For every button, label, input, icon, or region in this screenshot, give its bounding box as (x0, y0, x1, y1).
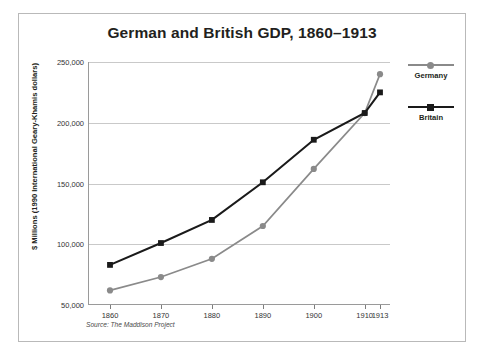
legend-swatch-britain (408, 102, 454, 112)
y-tick-label: 250,000 (57, 58, 84, 67)
x-tick-mark (161, 305, 162, 309)
x-tick-label: 1880 (204, 311, 221, 320)
legend-swatch-germany (408, 60, 454, 70)
data-point (107, 262, 113, 268)
x-tick-label: 1900 (305, 311, 322, 320)
x-tick-mark (365, 305, 366, 309)
x-tick-mark (110, 305, 111, 309)
data-point (311, 137, 317, 143)
series-line (110, 74, 380, 290)
data-point (158, 274, 164, 280)
y-tick-label: 50,000 (61, 301, 84, 310)
data-point (311, 166, 317, 172)
x-tick-mark (212, 305, 213, 309)
plot-area (88, 62, 390, 305)
x-tick-mark (314, 305, 315, 309)
data-point (260, 179, 266, 185)
series-container (88, 62, 390, 305)
data-point (377, 89, 383, 95)
legend-label-britain: Britain (400, 113, 462, 122)
legend-marker-circle (427, 62, 434, 69)
data-point (260, 223, 266, 229)
y-axis-tick-labels: 250,000 200,000 150,000 100,000 50,000 (44, 62, 84, 305)
x-tick-label: 1910 (356, 311, 373, 320)
data-point (362, 110, 368, 116)
series-line (110, 92, 380, 265)
x-tick-label: 1870 (153, 311, 170, 320)
y-axis-title: $ Millions (1990 International Geary-Kha… (30, 47, 39, 267)
data-point (377, 71, 383, 77)
legend-item-britain[interactable]: Britain (400, 102, 462, 122)
x-tick-label: 1913 (372, 311, 389, 320)
series-britain (107, 89, 383, 267)
data-point (209, 217, 215, 223)
chart-legend: Germany Britain (400, 60, 462, 144)
y-tick-label: 100,000 (57, 240, 84, 249)
data-point (107, 287, 113, 293)
chart-page: German and British GDP, 1860–1913 250,00… (0, 0, 486, 355)
y-tick-label: 150,000 (57, 179, 84, 188)
x-tick-mark (263, 305, 264, 309)
data-point (209, 256, 215, 262)
data-point (158, 240, 164, 246)
legend-marker-square (427, 104, 434, 111)
x-tick-label: 1860 (102, 311, 119, 320)
series-germany (107, 71, 383, 293)
legend-item-germany[interactable]: Germany (400, 60, 462, 80)
x-tick-mark (380, 305, 381, 309)
legend-label-germany: Germany (400, 71, 462, 80)
chart-title: German and British GDP, 1860–1913 (18, 24, 466, 42)
y-tick-label: 200,000 (57, 118, 84, 127)
x-tick-label: 1890 (254, 311, 271, 320)
source-caption: Source: The Maddison Project (86, 321, 175, 328)
